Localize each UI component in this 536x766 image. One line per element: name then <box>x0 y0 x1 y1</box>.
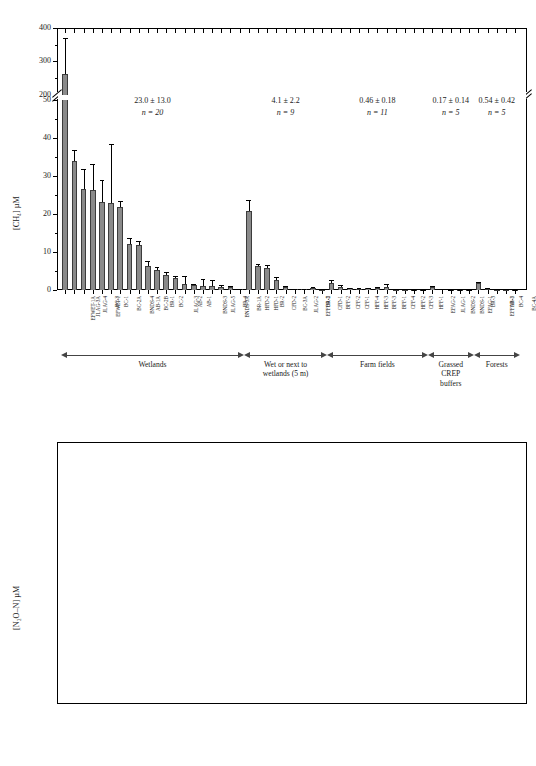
top-tick <box>414 29 415 33</box>
category-label: Farm fields <box>327 360 428 369</box>
y-tick-label: 0 <box>27 286 51 294</box>
group-mean-sd: 0.46 ± 0.18 <box>327 95 428 107</box>
error-bar-cap <box>145 261 150 262</box>
group-mean-sd: 0.17 ± 0.14 <box>428 95 474 107</box>
error-bar-cap <box>109 144 114 145</box>
top-tick <box>405 29 406 33</box>
category-band: Wetlands <box>61 352 245 386</box>
x-tick-label: HFF-4 <box>375 296 380 310</box>
bar <box>430 287 436 290</box>
bar <box>264 268 270 290</box>
category-band: Farm fields <box>327 352 428 386</box>
error-bar-cap <box>320 289 325 290</box>
top-tick <box>469 29 470 33</box>
y-tick-minor <box>55 45 58 46</box>
top-tick <box>368 29 369 33</box>
figure-page: Spatial Distribution of CH₄ in Groundwat… <box>0 0 536 766</box>
arrow-head-left-icon <box>474 352 480 358</box>
bar <box>81 189 87 290</box>
x-tick-label: BNDS-1 <box>480 296 485 314</box>
x-tick <box>286 290 287 294</box>
x-tick-label: JLAG-4 <box>102 296 107 313</box>
bar <box>191 285 197 290</box>
ch4-y-axis-label: [CH₄] µM <box>12 196 21 230</box>
error-bar-cap <box>421 290 426 291</box>
error-bar-cap <box>63 38 68 39</box>
error-bar <box>185 276 186 285</box>
bar <box>154 270 160 290</box>
arrow-head-left-icon <box>244 352 250 358</box>
x-tick <box>497 290 498 294</box>
error-bar-cap <box>439 289 444 290</box>
ch4-figure: Spatial Distribution of CH₄ in Groundwat… <box>0 0 536 400</box>
top-tick <box>359 29 360 33</box>
error-bar-cap <box>90 164 95 165</box>
x-tick-label: BC-4 <box>519 296 524 307</box>
x-tick-label: BNDS-4 <box>149 296 154 314</box>
top-tick <box>185 29 186 33</box>
error-bar-cap <box>228 286 233 287</box>
error-bar-cap <box>81 169 86 170</box>
bar <box>163 275 169 290</box>
x-tick <box>74 290 75 294</box>
bar <box>375 288 381 290</box>
error-bar-cap <box>274 277 279 278</box>
category-band: Forests <box>474 352 520 386</box>
arrow-line <box>332 355 423 356</box>
bar <box>209 286 215 290</box>
x-tick-label: AB-1A <box>156 296 161 311</box>
group-mean-sd: 4.1 ± 2.2 <box>244 95 327 107</box>
arrow-head-left-icon <box>428 352 434 358</box>
top-tick <box>157 29 158 33</box>
error-bar-cap <box>100 180 105 181</box>
error-bar-cap <box>118 201 123 202</box>
error-bar <box>249 200 250 211</box>
y-tick-minor <box>55 157 58 158</box>
bar <box>99 202 105 290</box>
y-tick-minor <box>55 271 58 272</box>
y-tick-label: 30 <box>27 172 51 180</box>
x-tick-label: CFD-2 <box>293 296 298 310</box>
x-tick-label: HFF-3 <box>384 296 389 310</box>
bar <box>182 284 188 290</box>
group-statistic: 4.1 ± 2.2n = 9 <box>244 95 327 118</box>
error-bar <box>93 164 94 190</box>
error-bar-cap <box>384 284 389 285</box>
x-tick-label: CFF-1 <box>365 296 370 309</box>
group-sample-size: n = 5 <box>474 107 520 119</box>
top-tick <box>221 29 222 33</box>
x-tick <box>313 290 314 294</box>
bar <box>329 283 335 290</box>
x-tick <box>368 290 369 294</box>
error-bar-cap <box>366 288 371 289</box>
error-bar <box>65 38 66 74</box>
arrow-head-left-icon <box>61 352 67 358</box>
error-bar-cap <box>283 286 288 287</box>
x-tick-label: BFF-3 <box>393 296 398 309</box>
error-bar-cap <box>256 264 261 265</box>
category-label: Wet or next to wetlands (5 m) <box>244 360 327 379</box>
y-tick-mark <box>53 290 57 291</box>
x-tick <box>130 290 131 294</box>
error-bar <box>74 150 75 161</box>
error-bar-cap <box>164 272 169 273</box>
error-bar-cap <box>155 267 160 268</box>
n2o-figure: Spatial Distribution of N₂O in Groundwat… <box>0 420 536 766</box>
error-bar <box>102 180 103 202</box>
error-bar-cap <box>302 289 307 290</box>
bar <box>365 288 371 290</box>
x-tick-label: BR-3 <box>491 296 496 307</box>
error-bar-cap <box>476 282 481 283</box>
error-bar-cap <box>448 290 453 291</box>
x-tick-label: BC-2 <box>179 296 184 307</box>
x-tick-label: BR-1 <box>170 296 175 307</box>
x-tick <box>488 290 489 294</box>
category-label: Forests <box>474 360 520 369</box>
x-tick-label: BR-2 <box>280 296 285 307</box>
x-tick <box>175 290 176 294</box>
x-tick <box>84 290 85 294</box>
top-tick <box>175 29 176 33</box>
x-tick-label: AB-3 <box>510 296 515 307</box>
arrow-line <box>249 355 322 356</box>
top-tick <box>506 29 507 33</box>
